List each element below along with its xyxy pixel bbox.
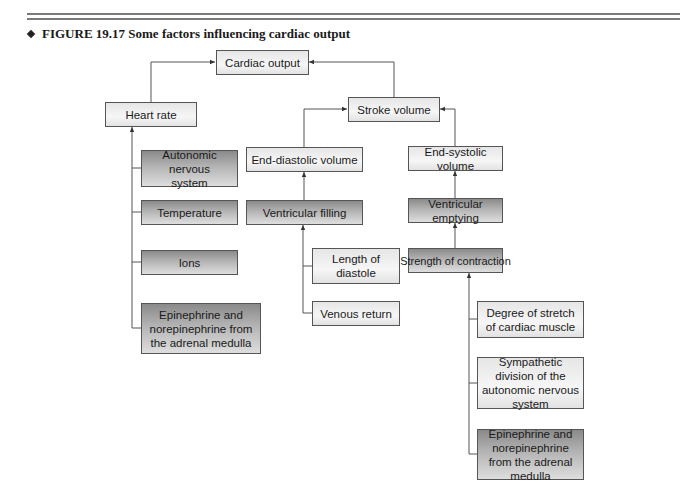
node-length-of-diastole: Length of diastole bbox=[312, 248, 400, 284]
node-label: Autonomic nervous system bbox=[150, 148, 229, 190]
node-label: Ions bbox=[179, 256, 201, 270]
node-label: Degree of stretch of cardiac muscle bbox=[482, 306, 579, 334]
connector-lines bbox=[0, 0, 687, 485]
node-label: End-systolic volume bbox=[409, 145, 502, 173]
node-sympathetic-division: Sympathetic division of the autonomic ne… bbox=[477, 357, 584, 409]
node-strength-of-contraction: Strength of contraction bbox=[408, 248, 503, 273]
node-cardiac-output: Cardiac output bbox=[216, 50, 309, 75]
node-label: Length of diastole bbox=[327, 252, 385, 280]
node-degree-of-stretch: Degree of stretch of cardiac muscle bbox=[477, 301, 584, 338]
node-ventricular-filling: Ventricular filling bbox=[246, 200, 363, 225]
node-heart-rate: Heart rate bbox=[105, 102, 197, 127]
node-label: Stroke volume bbox=[357, 103, 431, 117]
node-autonomic-nervous-system: Autonomic nervous system bbox=[141, 150, 238, 187]
node-end-systolic-volume: End-systolic volume bbox=[408, 146, 503, 171]
node-label: Epinephrine and norepinephrine from the … bbox=[480, 427, 581, 483]
node-label: Strength of contraction bbox=[400, 254, 511, 268]
node-end-diastolic-volume: End-diastolic volume bbox=[246, 147, 363, 172]
node-epinephrine-right: Epinephrine and norepinephrine from the … bbox=[477, 429, 584, 480]
node-temperature: Temperature bbox=[141, 200, 238, 225]
node-label: Venous return bbox=[320, 307, 392, 321]
node-label: Ventricular filling bbox=[263, 206, 347, 220]
node-epinephrine-left: Epinephrine and norepinephrine from the … bbox=[141, 303, 261, 354]
node-label: End-diastolic volume bbox=[251, 153, 357, 167]
node-label: Heart rate bbox=[125, 108, 176, 122]
node-ventricular-emptying: Ventricular emptying bbox=[408, 198, 503, 223]
node-label: Epinephrine and norepinephrine from the … bbox=[148, 308, 254, 350]
node-label: Ventricular emptying bbox=[409, 197, 502, 225]
node-label: Sympathetic division of the autonomic ne… bbox=[480, 355, 581, 411]
node-label: Cardiac output bbox=[225, 56, 300, 70]
node-label: Temperature bbox=[157, 206, 222, 220]
node-stroke-volume: Stroke volume bbox=[348, 97, 440, 122]
node-ions: Ions bbox=[141, 250, 238, 275]
node-venous-return: Venous return bbox=[312, 301, 400, 326]
